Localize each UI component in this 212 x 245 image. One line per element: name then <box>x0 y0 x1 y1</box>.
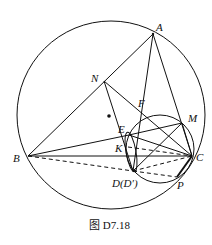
label-P: P <box>176 179 184 191</box>
point-A <box>152 33 154 35</box>
dashed-BD <box>28 156 133 171</box>
label-A: A <box>155 21 163 33</box>
label-F: F <box>137 97 145 109</box>
figure-caption: 图 D7.18 <box>89 219 130 231</box>
label-N: N <box>90 72 99 84</box>
label-M: M <box>187 112 198 124</box>
label-E: E <box>117 123 125 135</box>
label-B: B <box>13 152 20 164</box>
label-K: K <box>114 142 123 154</box>
segment-MD <box>133 123 182 171</box>
segment-BE <box>28 135 129 156</box>
segment-AB <box>28 34 153 156</box>
geometry-diagram: A N F M E K B C D(D′) P 图 D7.18 <box>0 0 212 245</box>
center-point <box>107 114 111 118</box>
segment-EC <box>129 135 192 156</box>
label-C: C <box>196 151 204 163</box>
label-D: D(D′) <box>111 177 138 190</box>
